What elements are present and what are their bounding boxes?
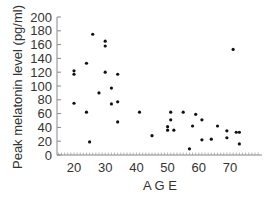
x-tick-label: 30 (98, 160, 112, 175)
data-point (166, 129, 169, 132)
data-point (85, 62, 88, 65)
y-tick-label: 0 (45, 148, 52, 163)
y-tick-label: 180 (30, 23, 52, 38)
x-tick-label: 40 (129, 160, 143, 175)
data-point (116, 73, 119, 76)
data-point (138, 111, 141, 114)
data-point (88, 140, 91, 143)
data-point (166, 125, 169, 128)
data-point (200, 118, 203, 121)
x-tick-label: 20 (67, 160, 81, 175)
data-point (110, 102, 113, 105)
data-point (104, 71, 107, 74)
data-point (188, 147, 191, 150)
y-tick-label: 100 (30, 79, 52, 94)
data-point (169, 118, 172, 121)
data-point (169, 111, 172, 114)
data-point (110, 86, 113, 89)
data-point (116, 100, 119, 103)
y-axis: 020406080100120140160180200 (30, 10, 61, 163)
y-tick-label: 120 (30, 65, 52, 80)
data-point (97, 91, 100, 94)
data-point (104, 40, 107, 43)
x-axis-title: A G E (143, 178, 177, 193)
y-tick-label: 200 (30, 10, 52, 25)
x-tick-label: 70 (223, 160, 237, 175)
data-point (235, 131, 238, 134)
data-point (232, 48, 235, 51)
data-point (225, 129, 228, 132)
data-point (238, 142, 241, 145)
y-tick-label: 60 (38, 106, 52, 121)
data-point (116, 120, 119, 123)
x-tick-label: 50 (160, 160, 174, 175)
data-points (72, 33, 241, 151)
data-point (216, 124, 219, 127)
data-point (172, 129, 175, 132)
data-point (225, 136, 228, 139)
x-axis: 203040506070 (57, 153, 262, 176)
data-point (238, 131, 241, 134)
scatter-chart: 020406080100120140160180200 203040506070… (0, 0, 273, 198)
data-point (150, 134, 153, 137)
y-tick-label: 80 (38, 92, 52, 107)
data-point (72, 102, 75, 105)
data-point (191, 124, 194, 127)
x-tick-label: 60 (192, 160, 206, 175)
data-point (72, 73, 75, 76)
data-point (182, 111, 185, 114)
data-point (91, 33, 94, 36)
data-point (104, 44, 107, 47)
y-tick-label: 160 (30, 37, 52, 52)
y-tick-label: 40 (38, 120, 52, 135)
data-point (210, 138, 213, 141)
data-point (72, 69, 75, 72)
y-axis-title: Peak melatonin level (pg/ml) (10, 5, 25, 169)
y-tick-label: 20 (38, 134, 52, 149)
y-tick-label: 140 (30, 51, 52, 66)
data-point (200, 138, 203, 141)
data-point (85, 111, 88, 114)
data-point (194, 113, 197, 116)
